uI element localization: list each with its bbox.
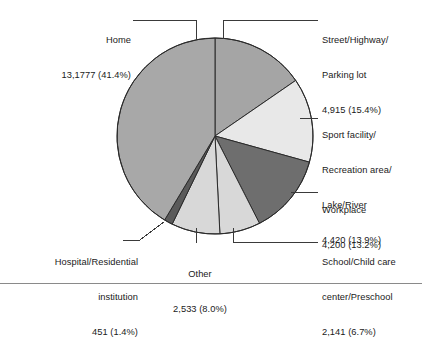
- slice-label-sport-line2: Recreation area/: [322, 165, 422, 177]
- slice-label-hospital-line1: Hospital/Residential: [4, 257, 138, 269]
- leader-line-school: [233, 228, 318, 242]
- slice-label-school-line2: center/Preschool: [322, 292, 422, 304]
- slice-label-home-line2: 13,1777 (41.4%): [6, 70, 131, 82]
- slice-label-home: Home 13,1777 (41.4%): [6, 12, 131, 105]
- slice-label-hospital-line2: institution: [4, 292, 138, 304]
- slice-label-other: Other 2,533 (8.0%): [150, 246, 250, 339]
- slice-label-school-line3: 2,141 (6.7%): [322, 327, 422, 339]
- slice-label-hospital-line3: 451 (1.4%): [4, 327, 138, 339]
- leader-line-street: [223, 20, 318, 39]
- slice-label-workplace-line1: Workplace: [322, 205, 422, 217]
- slice-label-school-line1: School/Child care: [322, 257, 422, 269]
- slice-label-school: School/Child care center/Preschool 2,141…: [322, 234, 422, 341]
- slice-label-other-line1: Other: [150, 269, 250, 281]
- slice-label-sport-line1: Sport facility/: [322, 130, 422, 142]
- leader-line-home: [133, 20, 196, 39]
- pie-slices-group: Street/Highway/Parking lot 4,915 (15.4%)…: [117, 38, 313, 234]
- footer-divider-rule: [0, 283, 422, 284]
- slice-label-street-line2: Parking lot: [322, 70, 422, 82]
- slice-label-hospital: Hospital/Residential institution 451 (1.…: [4, 234, 138, 341]
- slice-label-other-line2: 2,533 (8.0%): [150, 304, 250, 316]
- slice-label-street-line1: Street/Highway/: [322, 35, 422, 47]
- slice-label-home-line1: Home: [6, 35, 131, 47]
